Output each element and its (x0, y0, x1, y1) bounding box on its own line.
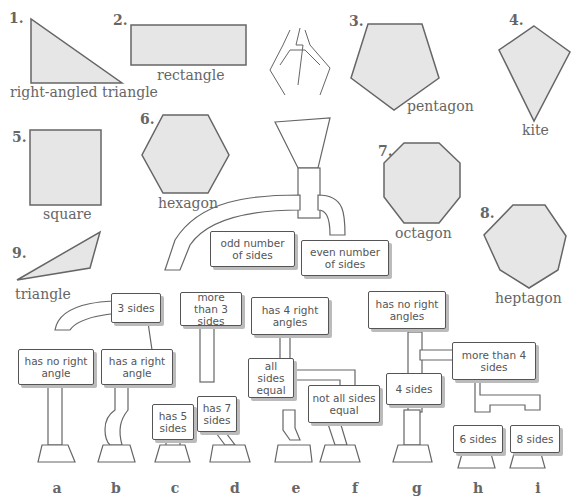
hexagon-shape (142, 115, 229, 193)
triangle-shape (17, 232, 100, 280)
shape-label-right-angled-triangle: right-angled triangle (10, 84, 158, 100)
shape-number-3: 3. (349, 13, 364, 29)
outlet-label-g: g (407, 480, 427, 496)
shape-number-5: 5. (12, 129, 27, 145)
shape-label-pentagon: pentagon (407, 98, 474, 114)
shape-number-2: 2. (113, 12, 128, 28)
shape-label-rectangle: rectangle (157, 67, 225, 83)
sign-more-than-4-sides: more than 4 sides (452, 342, 536, 380)
shape-number-9: 9. (12, 245, 27, 261)
shape-label-octagon: octagon (395, 225, 452, 241)
outlet-label-f: f (345, 480, 365, 496)
sign-has-7-sides: has 7 sides (197, 396, 237, 432)
shape-number-4: 4. (509, 12, 524, 28)
sign-4-sides: 4 sides (386, 373, 442, 405)
funnel-icon (275, 118, 330, 168)
sign-all-sides-equal: all sides equal (248, 358, 294, 398)
shape-number-6: 6. (140, 111, 155, 127)
square-shape (30, 130, 101, 205)
sign-even-number-of-sides: even number of sides (301, 240, 389, 276)
shape-label-triangle: triangle (15, 286, 71, 302)
kite-shape (499, 26, 570, 121)
sign-has-no-right-angle: has no right angle (18, 349, 94, 385)
rectangle-shape (131, 25, 246, 65)
sign-6-sides: 6 sides (453, 425, 503, 453)
shape-number-1: 1. (9, 10, 24, 26)
sign-odd-number-of-sides: odd number of sides (210, 231, 295, 267)
outlet-label-e: e (286, 480, 306, 496)
sign-3-sides: 3 sides (111, 293, 161, 323)
outlet-label-h: h (468, 480, 488, 496)
sign-not-all-sides-equal: not all sides equal (308, 385, 380, 423)
claw-icon (270, 28, 330, 95)
shape-label-kite: kite (522, 122, 549, 138)
shape-label-square: square (43, 206, 92, 222)
sign-has-no-right-angles: has no right angles (368, 291, 446, 329)
shape-label-heptagon: heptagon (495, 290, 562, 306)
outlet-label-b: b (106, 480, 126, 496)
sign-has-5-sides: has 5 sides (152, 404, 194, 440)
sign-more-than-3-sides: more than 3 sides (180, 292, 242, 326)
outlet-label-c: c (165, 480, 185, 496)
outlet-label-d: d (225, 480, 245, 496)
sign-has-a-right-angle: has a right angle (101, 349, 173, 385)
shape-label-hexagon: hexagon (158, 195, 218, 211)
shape-number-7: 7. (378, 143, 393, 159)
right-triangle-shape (31, 19, 122, 83)
sign-has-4-right-angles: has 4 right angles (251, 297, 329, 335)
sign-8-sides: 8 sides (510, 425, 560, 453)
octagon-shape (384, 143, 460, 223)
heptagon-shape (484, 205, 566, 288)
outlet-label-i: i (528, 480, 548, 496)
shape-number-8: 8. (480, 205, 495, 221)
outlet-label-a: a (47, 480, 67, 496)
